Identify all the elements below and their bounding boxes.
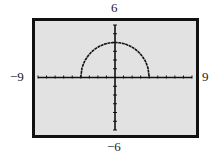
plot-area	[0, 0, 216, 155]
